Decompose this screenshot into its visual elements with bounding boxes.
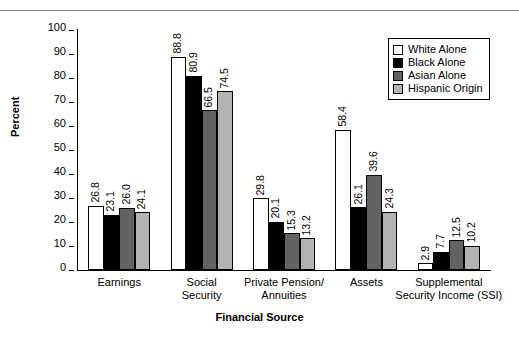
bar-value-label: 66.5 [203, 87, 214, 107]
bar-value-label: 26.1 [352, 184, 363, 204]
y-axis-tick-mark [69, 102, 74, 103]
legend-item: Black Alone [393, 56, 483, 69]
y-axis-tick-mark [69, 78, 74, 79]
bar: 23.1 [104, 215, 120, 270]
bar: 26.0 [119, 208, 135, 270]
y-axis-tick-mark [69, 174, 74, 175]
bar-value-label: 80.9 [187, 52, 198, 72]
bar-value-label: 88.8 [172, 33, 183, 53]
legend-swatch [393, 84, 403, 94]
legend-label: Black Alone [408, 57, 465, 68]
bar: 10.2 [464, 246, 480, 270]
y-axis-tick-mark [69, 30, 74, 31]
y-axis-tick-mark [69, 246, 74, 247]
bar: 80.9 [186, 76, 202, 270]
y-axis-tick-label: 90 [54, 46, 66, 57]
y-axis-tick-label: 40 [54, 166, 66, 177]
chart-figure: Percent 0102030405060708090100 26.823.12… [0, 0, 519, 339]
y-axis-tick-label: 20 [54, 214, 66, 225]
bar-group: 88.880.966.574.5 [171, 30, 233, 270]
x-axis-category-label-line: Annuities [219, 289, 349, 302]
bar: 88.8 [171, 57, 187, 270]
y-axis-tick-label: 10 [54, 238, 66, 249]
y-axis-tick-label: 0 [60, 262, 66, 273]
legend-item: White Alone [393, 43, 483, 56]
x-axis-title: Financial Source [0, 311, 519, 323]
bar-value-label: 24.1 [136, 189, 147, 209]
y-axis-tick-label: 50 [54, 142, 66, 153]
bar: 26.8 [88, 206, 104, 270]
legend-swatch [393, 58, 403, 68]
bar-group: 29.820.115.313.2 [253, 30, 315, 270]
legend-label: White Alone [408, 44, 467, 55]
bar: 15.3 [284, 233, 300, 270]
bar: 74.5 [217, 91, 233, 270]
bar: 12.5 [449, 240, 465, 270]
bar-value-label: 26.8 [89, 182, 100, 202]
top-divider [0, 10, 519, 11]
bar-value-label: 24.3 [383, 188, 394, 208]
bar-group: 26.823.126.024.1 [88, 30, 150, 270]
y-axis-tick-mark [69, 126, 74, 127]
bar-value-label: 13.2 [301, 215, 312, 235]
y-axis-tick-label: 80 [54, 70, 66, 81]
y-axis-tick-label: 70 [54, 94, 66, 105]
bar: 29.8 [253, 198, 269, 270]
legend-label: Asian Alone [408, 70, 466, 81]
bar: 24.3 [382, 212, 398, 270]
bar-value-label: 58.4 [337, 106, 348, 126]
legend-label: Hispanic Origin [408, 83, 483, 94]
bar-value-label: 26.0 [120, 184, 131, 204]
bar-value-label: 20.1 [270, 198, 281, 218]
y-axis-tick-mark [69, 270, 74, 271]
bar-value-label: 15.3 [285, 210, 296, 230]
y-axis-title-wrapper: Percent [22, 40, 36, 240]
y-axis-title: Percent [9, 17, 21, 137]
bar: 24.1 [135, 212, 151, 270]
y-axis-tick-label: 60 [54, 118, 66, 129]
bar-value-label: 39.6 [368, 152, 379, 172]
bar-value-label: 2.9 [419, 245, 430, 260]
legend-swatch [393, 45, 403, 55]
y-axis-tick-mark [69, 54, 74, 55]
x-axis-category-label: SupplementalSecurity Income (SSI) [384, 276, 514, 302]
bar: 2.9 [418, 263, 434, 270]
bar: 26.1 [351, 207, 367, 270]
bar-value-label: 7.7 [435, 234, 446, 249]
y-axis-tick-mark [69, 198, 74, 199]
bar-value-label: 74.5 [218, 68, 229, 88]
y-axis-tick-mark [69, 222, 74, 223]
bar: 58.4 [335, 130, 351, 270]
legend-item: Asian Alone [393, 69, 483, 82]
bar-value-label: 10.2 [466, 222, 477, 242]
bar: 7.7 [433, 252, 449, 270]
bar-value-label: 29.8 [254, 175, 265, 195]
y-axis-tick-label: 100 [48, 22, 66, 33]
x-axis-category-label-line: Security Income (SSI) [384, 289, 514, 302]
x-axis-line [77, 270, 491, 271]
bar-value-label: 23.1 [105, 191, 116, 211]
y-axis-tick-mark [69, 150, 74, 151]
legend-swatch [393, 71, 403, 81]
bar: 13.2 [300, 238, 316, 270]
legend-item: Hispanic Origin [393, 82, 483, 95]
x-axis-category-label-line: Supplemental [384, 276, 514, 289]
bar: 20.1 [269, 222, 285, 270]
y-axis-tick-label: 30 [54, 190, 66, 201]
bar: 39.6 [366, 175, 382, 270]
legend: White AloneBlack AloneAsian AloneHispani… [388, 38, 490, 100]
bar: 66.5 [202, 110, 218, 270]
bar-value-label: 12.5 [450, 217, 461, 237]
